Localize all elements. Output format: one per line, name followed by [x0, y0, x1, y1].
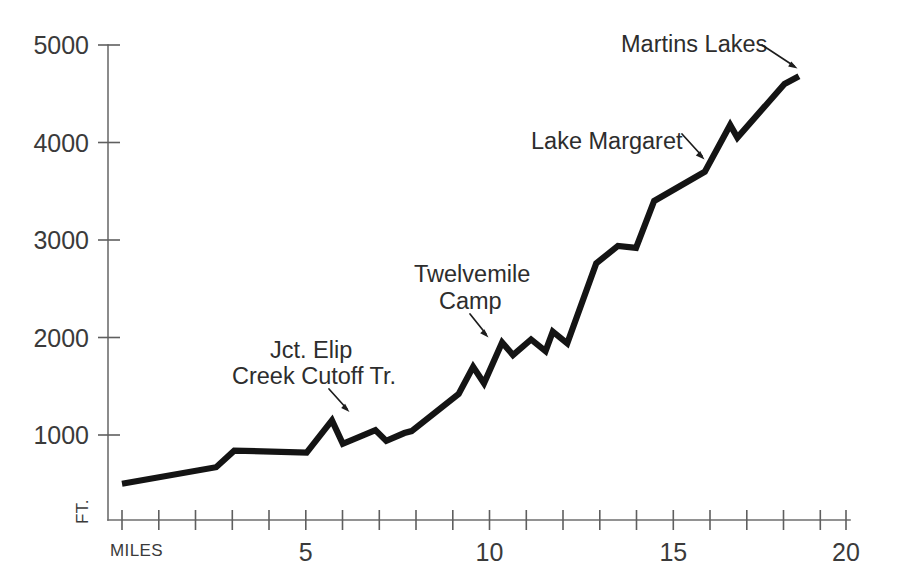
annotation-twelvemile-camp: Twelvemile Camp [414, 261, 530, 338]
annotation-label-lake-margaret: Lake Margaret [531, 128, 683, 154]
y-tick-label-4000: 4000 [33, 129, 89, 157]
x-tick-label-5: 5 [299, 538, 313, 566]
x-tick-label-10: 10 [476, 538, 504, 566]
annotation-label-jct-line1: Jct. Elip [270, 337, 352, 363]
y-axis-unit-label: FT. [73, 499, 92, 524]
annotation-arrowhead-twelvemile [480, 329, 488, 337]
annotation-arrowhead-lake-margaret [696, 151, 705, 159]
elevation-profile-figure: 5000 4000 3000 2000 1000 FT. [0, 0, 899, 585]
x-tick-label-20: 20 [832, 538, 860, 566]
y-tick-label-5000: 5000 [33, 31, 89, 59]
y-tick-label-3000: 3000 [33, 226, 89, 254]
annotation-label-martins-lakes: Martins Lakes [621, 31, 767, 57]
x-axis-group: 5 10 15 20 MILES [108, 510, 860, 566]
y-axis-group: 5000 4000 3000 2000 1000 FT. [33, 31, 120, 524]
annotation-label-jct-line2: Creek Cutoff Tr. [232, 363, 396, 389]
x-axis-unit-label: MILES [110, 541, 163, 560]
x-tick-label-15: 15 [659, 538, 687, 566]
annotation-martins-lakes: Martins Lakes [621, 31, 798, 69]
annotation-label-twelvemile-line2: Camp [439, 288, 502, 314]
elevation-chart: 5000 4000 3000 2000 1000 FT. [0, 0, 899, 585]
annotation-label-twelvemile-line1: Twelvemile [414, 261, 530, 287]
annotation-jct-elip-creek-cutoff: Jct. Elip Creek Cutoff Tr. [232, 337, 396, 412]
y-tick-label-2000: 2000 [33, 324, 89, 352]
y-tick-label-1000: 1000 [33, 421, 89, 449]
annotation-lake-margaret: Lake Margaret [531, 128, 705, 160]
